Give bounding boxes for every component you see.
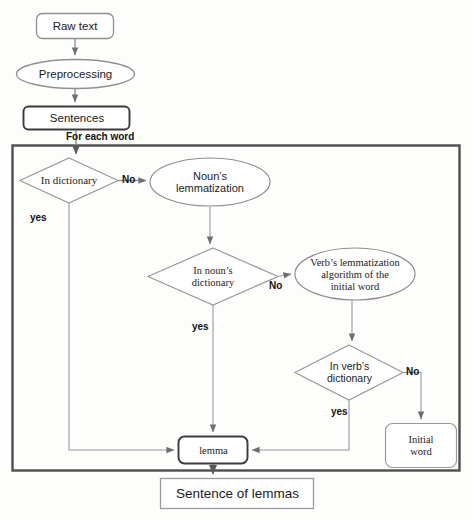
initial-word-shape (386, 424, 457, 468)
edge-label-noun-dictionary-no: No (269, 280, 282, 291)
in-noun-dictionary-shape (148, 248, 278, 305)
verb-lemmatization-shape (295, 248, 415, 300)
raw-text-shape (37, 14, 114, 39)
sentence-of-lemmas-shape (161, 479, 314, 509)
edge-label-for-each-word: For each word (66, 131, 134, 142)
flowchart-vector-layer (0, 0, 471, 520)
flowchart-canvas: Raw text Preprocessing Sentences In dict… (0, 0, 471, 520)
edge-in-dictionary-yes-to-lemma (69, 203, 174, 450)
sentences-shape (24, 107, 130, 130)
edge-label-verb-dictionary-no: No (406, 366, 419, 377)
edge-in-noun-no-to-verb (278, 274, 291, 277)
edge-label-noun-dictionary-yes: yes (192, 321, 209, 332)
edge-label-dictionary-no: No (122, 174, 135, 185)
noun-lemmatization-shape (150, 158, 270, 206)
edge-in-verb-no-to-initial-word (403, 373, 421, 420)
in-dictionary-shape (20, 158, 118, 203)
edge-label-verb-dictionary-yes: yes (331, 406, 348, 417)
lemma-shape (179, 437, 248, 464)
in-verb-dictionary-shape (295, 345, 403, 400)
preprocessing-shape (17, 60, 135, 89)
edge-label-dictionary-yes: yes (30, 212, 47, 223)
